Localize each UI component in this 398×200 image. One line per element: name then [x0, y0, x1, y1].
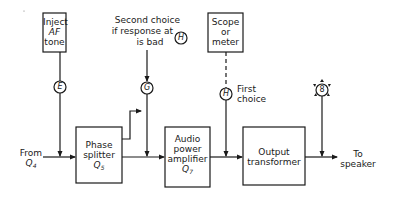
test-point-g: G: [140, 81, 154, 95]
audio-power-amplifier-label: Audio power amplifier Q7: [165, 134, 210, 177]
scope-meter-label: Scope or meter: [208, 17, 243, 47]
second-choice-annotation: Second choice: [110, 15, 180, 25]
test-point-e: E: [53, 80, 67, 94]
second-choice-annotation-line3: is bad: [130, 37, 170, 47]
test-point-speaker-8: 8: [315, 83, 329, 97]
output-transformer-label: Output transformer: [243, 147, 305, 167]
first-choice-annotation: First choice: [237, 84, 266, 104]
inject-af-tone-label: Inject AF tone: [43, 17, 66, 47]
test-point-h-reference: H: [174, 31, 188, 45]
phase-splitter-label: Phase splitter Q5: [76, 140, 122, 173]
second-choice-annotation-line2: if response at: [108, 26, 173, 36]
output-to-speaker-label: To speaker: [338, 149, 378, 169]
input-from-q4-label: From Q4: [18, 148, 44, 171]
signal-trace-diagram: Inject AF tone Scope or meter Phase spli…: [0, 0, 398, 200]
test-point-h: H: [219, 87, 233, 101]
